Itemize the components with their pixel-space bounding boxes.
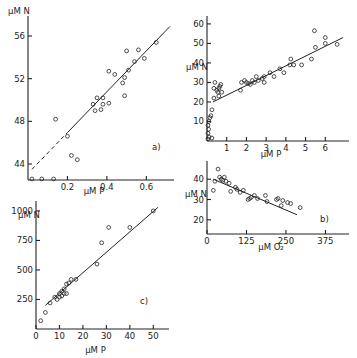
- x-tick-label: 0: [33, 331, 38, 341]
- data-point: [99, 108, 103, 112]
- data-point: [310, 57, 314, 61]
- x-tick-label: 125: [238, 236, 254, 246]
- x-tick-label: 30: [101, 331, 112, 341]
- panel-label: a): [152, 142, 161, 152]
- y-tick-label: 30: [193, 77, 204, 87]
- data-point: [262, 81, 266, 85]
- x-tick-label: 40: [124, 331, 135, 341]
- x-tick-label: 20: [77, 331, 88, 341]
- y-tick-label: 52: [14, 74, 25, 84]
- data-point: [210, 108, 214, 112]
- data-point: [282, 71, 286, 75]
- data-point: [128, 226, 132, 230]
- data-point: [55, 298, 59, 302]
- x-axis-label: μM P: [261, 149, 282, 159]
- data-point: [121, 81, 125, 85]
- data-point: [75, 158, 79, 162]
- data-point: [93, 109, 97, 113]
- x-tick-label: 1: [224, 143, 229, 153]
- data-point: [298, 206, 302, 210]
- data-point: [39, 319, 43, 323]
- panel-c: 010203040502505007501000μM PμM Nc): [11, 201, 169, 355]
- data-point: [125, 49, 129, 53]
- data-point: [279, 204, 283, 208]
- panel-label: b): [320, 214, 329, 224]
- data-point: [213, 81, 217, 85]
- x-axis-label: μM P: [85, 345, 106, 355]
- data-point: [300, 63, 304, 67]
- y-tick-label: 20: [193, 97, 204, 107]
- data-point: [281, 199, 285, 203]
- data-point: [335, 42, 339, 46]
- data-point: [69, 154, 73, 158]
- data-point: [217, 94, 221, 98]
- fit-line: [45, 207, 158, 305]
- panel-b: 0125250375203040μM O₂μM Nb): [185, 161, 349, 252]
- x-tick-label: 10: [54, 331, 65, 341]
- y-axis-label: μM N: [8, 6, 30, 16]
- x-tick-label: 5: [303, 143, 308, 153]
- data-point: [142, 57, 146, 61]
- x-axis-label: μM O₂: [258, 242, 284, 252]
- panel-a: 0.20.40.644485256μM PμM Na): [8, 6, 174, 196]
- data-point: [107, 226, 111, 230]
- data-point: [137, 48, 141, 52]
- y-axis-label: μM N: [186, 62, 208, 72]
- data-point: [216, 167, 220, 171]
- data-point: [107, 69, 111, 73]
- data-point: [264, 194, 268, 198]
- data-point: [113, 73, 117, 77]
- x-tick-label: 375: [317, 236, 333, 246]
- data-point: [254, 75, 258, 79]
- data-point: [227, 181, 231, 185]
- x-axis-label: μM P: [84, 186, 105, 196]
- data-point: [66, 134, 70, 138]
- data-point: [222, 175, 226, 179]
- figure-canvas: 0.20.40.644485256μM PμM Na)1234561020304…: [0, 0, 357, 358]
- data-point: [123, 76, 127, 80]
- y-tick-label: 44: [14, 159, 25, 169]
- data-point: [211, 188, 215, 192]
- data-point: [314, 45, 318, 49]
- data-point: [101, 102, 105, 106]
- x-tick-label: 6: [323, 143, 328, 153]
- y-tick-label: 750: [17, 235, 33, 245]
- data-point: [65, 292, 69, 296]
- x-tick-label: 0: [204, 236, 209, 246]
- panel-label: c): [140, 296, 148, 306]
- data-point: [100, 241, 104, 245]
- data-point: [272, 75, 276, 79]
- y-tick-label: 40: [193, 174, 204, 184]
- data-point: [54, 117, 58, 121]
- data-point: [313, 29, 317, 33]
- data-point: [69, 278, 73, 282]
- data-point: [289, 57, 293, 61]
- y-tick-label: 20: [193, 215, 204, 225]
- x-tick-label: 0.6: [140, 182, 154, 192]
- data-point: [323, 36, 327, 40]
- data-point: [43, 311, 47, 315]
- x-tick-label: 2: [244, 143, 249, 153]
- y-tick-label: 60: [193, 19, 204, 29]
- data-point: [229, 189, 233, 193]
- y-tick-label: 10: [193, 116, 204, 126]
- data-point: [95, 262, 99, 266]
- y-tick-label: 50: [193, 38, 204, 48]
- data-point: [95, 96, 99, 100]
- x-tick-label: 50: [148, 331, 159, 341]
- y-tick-label: 500: [17, 265, 33, 275]
- y-axis-label: μM N: [185, 189, 207, 199]
- data-point: [323, 42, 327, 46]
- x-tick-label: 0.2: [61, 182, 75, 192]
- data-point: [212, 96, 216, 100]
- y-tick-label: 56: [14, 31, 25, 41]
- data-point: [220, 90, 224, 94]
- y-tick-label: 250: [17, 294, 33, 304]
- y-axis-label: μM N: [18, 210, 40, 220]
- x-tick-label: 4: [283, 143, 288, 153]
- data-point: [123, 94, 127, 98]
- data-point: [239, 88, 243, 92]
- y-tick-label: 48: [14, 116, 25, 126]
- data-point: [107, 101, 111, 105]
- fit-line-extrapolated: [32, 133, 68, 170]
